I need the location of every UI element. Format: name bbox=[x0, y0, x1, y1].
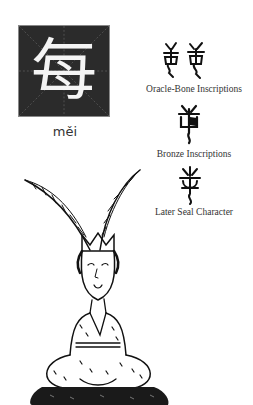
bronze-glyph-icon bbox=[176, 103, 202, 145]
character-box: 每 bbox=[18, 25, 110, 117]
seated-woman-illustration bbox=[20, 165, 200, 405]
caption-oracle-bone: Oracle-Bone Inscriptions bbox=[135, 84, 253, 94]
main-character: 每 bbox=[19, 26, 109, 116]
pinyin-label: měi bbox=[40, 124, 90, 139]
oracle-bone-glyph-icon bbox=[160, 40, 210, 80]
caption-bronze: Bronze Inscriptions bbox=[135, 149, 253, 159]
